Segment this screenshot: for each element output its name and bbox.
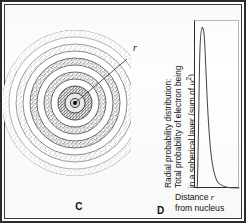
panel-c: r C	[9, 9, 131, 223]
nucleus-dot	[73, 101, 77, 105]
distance-symbol: r	[211, 192, 214, 202]
figure-inner-border: r C Radial probability distribution: Tot…	[4, 4, 242, 219]
panel-d-label: D	[157, 205, 164, 216]
electron-shell-diagram	[3, 19, 131, 187]
shell-rings	[3, 30, 131, 176]
x-axis-caption-line-2: from nucleus	[175, 203, 246, 214]
y-axis-caption-line-2: Total probability of electron being	[173, 18, 183, 188]
x-axis-caption-line-1: Distance r	[175, 192, 246, 203]
x-axis-caption-line-1-text: Distance	[175, 192, 211, 202]
psi-exponent: 2	[185, 77, 192, 81]
radial-probability-curve-svg	[195, 21, 240, 189]
y-axis-caption-line-1: Radial probability distribution:	[163, 18, 173, 188]
panel-d: Radial probability distribution: Total p…	[131, 9, 246, 223]
concentric-shells-svg	[3, 19, 131, 187]
radial-probability-plot	[194, 20, 239, 188]
panel-c-label: C	[9, 201, 149, 212]
figure-frame: r C Radial probability distribution: Tot…	[0, 0, 246, 223]
radial-probability-curve	[197, 27, 239, 188]
x-axis-caption: Distance r from nucleus	[175, 192, 246, 213]
